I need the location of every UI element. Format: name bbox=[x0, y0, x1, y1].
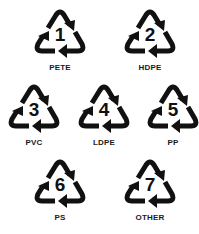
resin-code-6: 6 PS bbox=[34, 158, 86, 226]
resin-code-number: 7 bbox=[124, 175, 176, 195]
resin-code-label: PS bbox=[24, 213, 96, 223]
resin-code-label: HDPE bbox=[114, 63, 186, 73]
resin-code-1: 1 PETE bbox=[34, 8, 86, 76]
resin-code-label: LDPE bbox=[68, 138, 140, 148]
resin-code-number: 5 bbox=[147, 100, 199, 120]
resin-code-number: 6 bbox=[34, 175, 86, 195]
resin-code-number: 1 bbox=[34, 25, 86, 45]
resin-code-label: PETE bbox=[24, 63, 96, 73]
resin-code-7: 7 OTHER bbox=[124, 158, 176, 226]
resin-code-3: 3 PVC bbox=[8, 83, 60, 151]
resin-code-2: 2 HDPE bbox=[124, 8, 176, 76]
resin-code-label: PVC bbox=[0, 138, 70, 148]
resin-code-label: PP bbox=[137, 138, 199, 148]
resin-code-number: 4 bbox=[78, 100, 130, 120]
resin-code-number: 3 bbox=[8, 100, 60, 120]
resin-code-label: OTHER bbox=[114, 213, 186, 223]
resin-code-4: 4 LDPE bbox=[78, 83, 130, 151]
resin-code-number: 2 bbox=[124, 25, 176, 45]
resin-code-5: 5 PP bbox=[147, 83, 199, 151]
